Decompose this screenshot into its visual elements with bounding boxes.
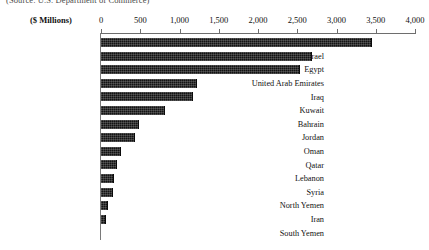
category-label: Egypt: [304, 65, 324, 75]
bar: [101, 201, 108, 210]
category-label: Oman: [304, 147, 324, 157]
x-axis-tick: [258, 29, 259, 33]
category-label: Lebanon: [295, 174, 324, 184]
x-axis-tick-label: 3,000: [327, 15, 346, 25]
x-axis-tick-label: 500: [134, 15, 147, 25]
x-axis-tick-label: 1,500: [209, 15, 228, 25]
category-label: Bahrain: [298, 120, 324, 130]
x-axis-tick: [101, 29, 102, 33]
bar: [101, 65, 300, 74]
category-label: Kuwait: [300, 106, 324, 116]
category-label: Iran: [311, 215, 324, 225]
category-label: United Arab Emirates: [252, 79, 324, 89]
category-label: Jordan: [302, 133, 324, 143]
x-axis-tick: [140, 29, 141, 33]
x-axis-tick-label: 2,000: [248, 15, 267, 25]
x-axis-tick-label: 4,000: [405, 15, 424, 25]
bar: [101, 160, 117, 169]
category-label: South Yemen: [280, 229, 324, 239]
x-axis-tick-label: 3,500: [366, 15, 385, 25]
x-axis-tick-label: 2,500: [288, 15, 307, 25]
category-label: Qatar: [306, 161, 324, 171]
bar: [101, 92, 193, 101]
bar: [101, 79, 197, 88]
source-note: (Source: U.S. Department of Commerce): [6, 0, 149, 5]
bar: [101, 52, 312, 61]
units-axis-label: ($ Millions): [30, 15, 72, 25]
category-label: Syria: [306, 188, 324, 198]
bar: [101, 215, 106, 224]
bar: [101, 133, 135, 142]
bar: [101, 106, 165, 115]
bar: [101, 174, 114, 183]
x-axis-tick-label: 1,000: [170, 15, 189, 25]
bar: [101, 120, 139, 129]
category-label: Iraq: [311, 93, 324, 103]
bar: [101, 38, 372, 47]
x-axis-tick: [337, 29, 338, 33]
bar: [101, 147, 121, 156]
x-axis-tick: [219, 29, 220, 33]
horizontal-bar-chart: (Source: U.S. Department of Commerce) ($…: [0, 0, 429, 250]
x-axis-tick: [415, 29, 416, 33]
x-axis-tick: [297, 29, 298, 33]
x-axis-tick: [376, 29, 377, 33]
x-axis-tick: [180, 29, 181, 33]
x-axis-tick-label: 0: [99, 15, 103, 25]
category-label: North Yemen: [280, 201, 324, 211]
bar: [101, 188, 113, 197]
